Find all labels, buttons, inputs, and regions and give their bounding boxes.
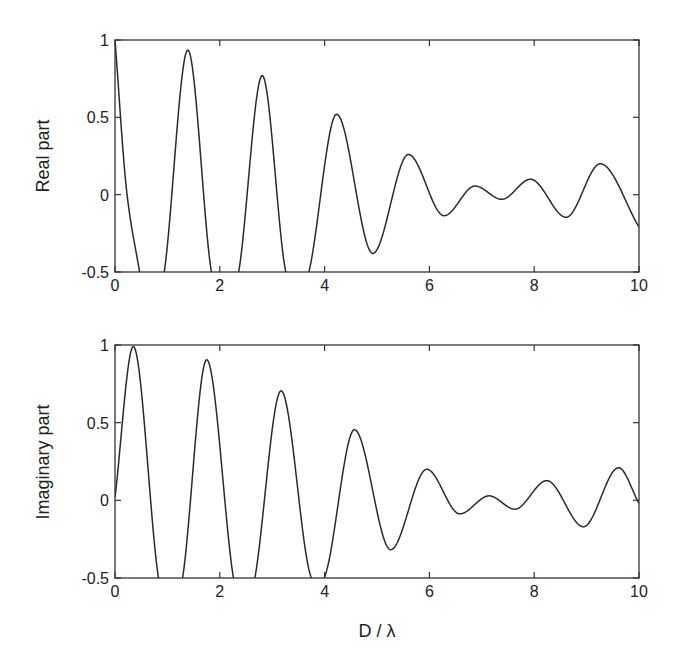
y-tick-label: 0.5 <box>87 109 109 126</box>
y-tick-label: -0.5 <box>81 570 109 587</box>
x-tick-label: 0 <box>111 583 120 600</box>
real-part-ylabel: Real part <box>33 119 53 192</box>
imaginary-part-plot: 0246810-0.500.51 Imaginary part D / λ <box>33 337 648 641</box>
x-tick-label: 6 <box>425 277 434 294</box>
y-tick-label: 0 <box>100 492 109 509</box>
imaginary-part-ticks: 0246810-0.500.51 <box>81 337 648 600</box>
x-tick-label: 8 <box>530 277 539 294</box>
x-tick-label: 2 <box>215 583 224 600</box>
x-tick-label: 0 <box>111 277 120 294</box>
y-tick-label: 1 <box>100 337 109 354</box>
x-tick-label: 4 <box>320 583 329 600</box>
x-tick-label: 4 <box>320 277 329 294</box>
y-tick-label: 0.5 <box>87 415 109 432</box>
y-tick-label: 0 <box>100 187 109 204</box>
x-axis-label: D / λ <box>358 621 395 641</box>
imaginary-part-curve <box>115 347 639 641</box>
y-tick-label: 1 <box>100 32 109 49</box>
x-tick-label: 2 <box>215 277 224 294</box>
x-tick-label: 6 <box>425 583 434 600</box>
real-part-curve <box>115 40 639 342</box>
x-tick-label: 10 <box>630 583 648 600</box>
x-tick-label: 8 <box>530 583 539 600</box>
real-part-plot: 0246810-0.500.51 Real part <box>33 32 648 342</box>
y-tick-label: -0.5 <box>81 264 109 281</box>
imaginary-part-ylabel: Imaginary part <box>33 404 53 519</box>
x-tick-label: 10 <box>630 277 648 294</box>
figure: 0246810-0.500.51 Real part 0246810-0.500… <box>0 0 682 667</box>
